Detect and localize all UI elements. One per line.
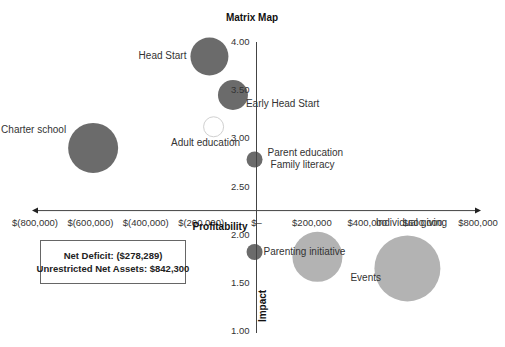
bubble-chart: Matrix Map $(800,000)$(600,000)$(400,000… [0,0,505,347]
bubble-head-start [190,37,228,75]
x-tick-label: $200,000 [292,217,332,228]
x-tick-label: $800,000 [458,217,498,228]
bubble-label-head-start: Head Start [139,50,187,61]
y-tick-label: 1.50 [231,277,250,288]
x-tick-label: $– [251,217,262,228]
bubble-label-parenting-initiative: Parenting initiative [264,246,346,257]
bubble-label-charter-school: Charter school [1,124,66,135]
unrestricted-net-assets-text: Unrestricted Net Assets: $842,300 [37,262,190,275]
net-deficit-text: Net Deficit: ($278,289) [64,249,163,262]
bubble-label-parent-education-family-literacy: Parent educationFamily literacy [268,147,344,170]
x-tick-label: $(400,000) [123,217,169,228]
x-axis-right-arrow-icon [475,208,481,214]
y-tick-label: 2.50 [231,181,250,192]
y-tick-label: 1.00 [231,325,250,336]
bubble-individual-giving [374,235,440,301]
bubble-parent-education-family-literacy [247,152,263,168]
x-tick-label: $(600,000) [67,217,113,228]
bubble-adult-education [204,117,224,137]
bubble-label-adult-education: Adult education [171,137,240,148]
bubble-label-early-head-start: Early Head Start [246,98,320,109]
bubble-label-events: Events [350,272,381,283]
summary-box: Net Deficit: ($278,289) Unrestricted Net… [40,240,186,284]
y-tick-label: 3.50 [231,84,250,95]
x-axis-left-arrow-icon [32,208,38,214]
y-tick-label: 4.00 [231,36,250,47]
labels-layer: 1.001.502.002.503.003.504.00Head StartEa… [1,36,447,336]
y-axis-title: Impact [257,289,268,322]
bubble-parenting-initiative [247,244,263,260]
x-axis-title: Profitability [192,221,247,232]
x-tick-label: $(800,000) [12,217,58,228]
bubble-charter-school [68,123,118,173]
bubble-label-individual-giving: Individual giving [376,217,447,228]
chart-title: Matrix Map [226,12,278,23]
